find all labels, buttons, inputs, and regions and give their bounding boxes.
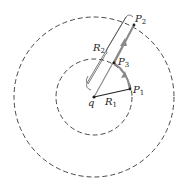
p1-point <box>129 88 132 91</box>
p2-point <box>133 24 136 27</box>
label-r2: R2 <box>92 42 105 55</box>
label-q: q <box>88 97 94 108</box>
p3-point <box>113 62 116 65</box>
label-r1: R1 <box>104 96 117 109</box>
label-p1: P1 <box>132 84 144 97</box>
label-p2: P2 <box>134 13 146 26</box>
point-charge-path-diagram: q R1 R2 P1 P3 P2 <box>0 0 183 191</box>
